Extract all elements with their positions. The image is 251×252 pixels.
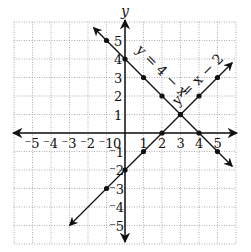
data-point xyxy=(215,149,220,154)
data-point xyxy=(104,38,109,43)
data-point xyxy=(122,167,127,172)
x-tick-label: 2 xyxy=(158,136,166,151)
x-tick-label: ⁻2 xyxy=(80,136,95,151)
data-point xyxy=(215,75,220,80)
y-tick-label: ⁻2 xyxy=(109,163,124,178)
y-tick-label: 2 xyxy=(114,89,122,104)
y-tick-label: ⁻1 xyxy=(109,145,124,160)
data-point xyxy=(196,93,201,98)
y-tick-label: 5 xyxy=(114,34,122,49)
y-tick-label: ⁻4 xyxy=(109,200,124,215)
y-tick-label: 1 xyxy=(114,108,122,123)
data-point xyxy=(159,130,164,135)
x-tick-label: 3 xyxy=(177,136,185,151)
x-tick-label: ⁻3 xyxy=(62,136,77,151)
y-tick-label: 3 xyxy=(114,71,122,86)
data-point xyxy=(141,149,146,154)
axes: y xyxy=(13,3,237,242)
x-tick-label: ⁻5 xyxy=(25,136,40,151)
y-tick-label: ⁻5 xyxy=(109,219,124,234)
equation-labels: y = 4 − xy = x − 2 xyxy=(132,41,226,109)
data-point xyxy=(141,75,146,80)
x-tick-label: ⁻4 xyxy=(43,136,58,151)
x-tick-label: 4 xyxy=(195,136,203,151)
data-point xyxy=(122,56,127,61)
data-point xyxy=(196,130,201,135)
y-axis-label: y xyxy=(120,3,130,19)
coordinate-plane: y ⁻5⁻4⁻3⁻2⁻101234554321⁻1⁻2⁻3⁻4⁻5 y = 4 … xyxy=(0,0,251,252)
data-point xyxy=(178,112,183,117)
data-point xyxy=(159,93,164,98)
data-point xyxy=(104,186,109,191)
